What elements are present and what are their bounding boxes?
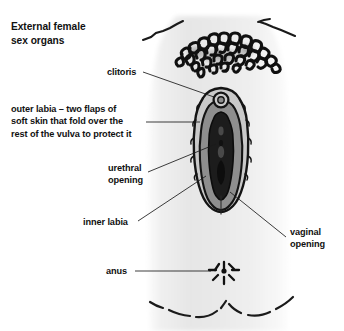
figure-canvas: External female sex organs clitoris oute… bbox=[0, 0, 344, 331]
label-outer-labia: outer labia – two flaps of soft skin tha… bbox=[11, 103, 131, 140]
vestibule bbox=[209, 112, 234, 200]
vulva-anatomy-illustration bbox=[0, 0, 344, 331]
label-urethral-opening: urethral opening bbox=[108, 162, 143, 187]
figure-title: External female sex organs bbox=[11, 20, 86, 47]
label-clitoris: clitoris bbox=[107, 66, 136, 78]
clitoris bbox=[214, 93, 229, 108]
label-vaginal-opening: vaginal opening bbox=[290, 226, 325, 251]
label-inner-labia: inner labia bbox=[83, 216, 128, 228]
label-anus: anus bbox=[106, 265, 127, 277]
urethral-opening bbox=[219, 140, 223, 146]
